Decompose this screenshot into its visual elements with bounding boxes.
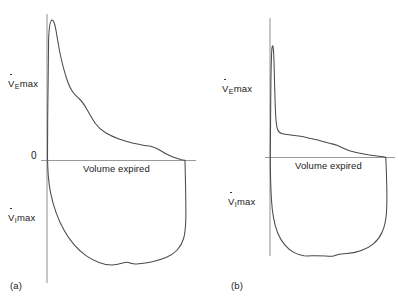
overdot-icon xyxy=(10,208,12,210)
panel-a-inspiratory-axis-label: VImax xyxy=(8,212,35,226)
overdot-icon xyxy=(10,74,12,76)
panel-a-plot xyxy=(0,0,199,304)
panel-b-inspiratory-curve xyxy=(270,158,387,257)
panel-a-insp-max: max xyxy=(17,212,35,223)
v-dot-glyph-a-e: V xyxy=(8,78,14,89)
panel-b: VEmax VImax Volume expired (b) xyxy=(199,0,398,304)
v-dot-glyph-a-i: V xyxy=(8,212,14,223)
figure-root: VEmax VImax 0 Volume expired (a) xyxy=(0,0,398,304)
panel-a-inspiratory-curve xyxy=(48,161,186,266)
overdot-icon xyxy=(230,192,232,194)
panel-a-exp-max: max xyxy=(20,78,38,89)
panel-b-expiratory-axis-label: VEmax xyxy=(222,83,252,97)
panel-b-insp-max: max xyxy=(237,196,255,207)
panel-a: VEmax VImax 0 Volume expired (a) xyxy=(0,0,199,304)
panel-b-inspiratory-axis-label: VImax xyxy=(228,196,255,210)
panel-b-expiratory-curve xyxy=(270,46,386,158)
panel-a-expiratory-curve xyxy=(48,20,186,160)
panel-b-x-axis-label: Volume expired xyxy=(295,160,362,171)
panel-a-expiratory-axis-label: VEmax xyxy=(8,78,38,92)
panel-b-plot xyxy=(199,0,398,304)
v-dot-glyph-b-i: V xyxy=(228,196,234,207)
panel-b-tag: (b) xyxy=(231,280,243,291)
panel-a-x-axis-label: Volume expired xyxy=(83,163,150,174)
panel-a-origin-label: 0 xyxy=(31,150,37,161)
overdot-icon xyxy=(224,79,226,81)
v-dot-glyph-b-e: V xyxy=(222,83,228,94)
panel-a-tag: (a) xyxy=(10,280,22,291)
panel-b-exp-max: max xyxy=(234,83,252,94)
